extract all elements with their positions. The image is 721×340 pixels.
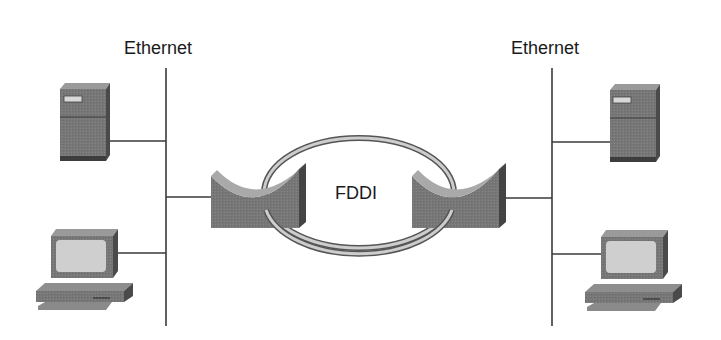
workstation-left-icon — [36, 229, 133, 310]
ethernet-right-label: Ethernet — [511, 39, 579, 57]
workstation-right-icon — [585, 230, 682, 311]
server-right-icon — [610, 84, 660, 162]
network-diagram — [0, 0, 721, 340]
server-left-icon — [60, 83, 110, 161]
router-right-icon — [412, 163, 506, 228]
ethernet-left-label: Ethernet — [124, 39, 192, 57]
fddi-label: FDDI — [335, 184, 377, 202]
